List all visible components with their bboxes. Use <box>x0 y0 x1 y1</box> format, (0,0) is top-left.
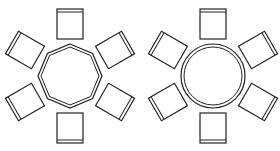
circular-table-layout <box>148 9 277 143</box>
seating-diagram <box>0 0 280 151</box>
chair-bottom <box>57 113 83 143</box>
chair-top-right <box>96 31 135 69</box>
chair-bottom-right <box>239 83 278 121</box>
chair-bottom <box>200 113 226 143</box>
chair-top <box>57 9 83 39</box>
circle-table <box>181 44 245 108</box>
chair-bottom-right <box>96 83 135 121</box>
chair-top <box>200 9 226 39</box>
chair-top-right <box>239 31 278 69</box>
chair-bottom-left <box>148 83 187 121</box>
chair-bottom-left <box>5 83 44 121</box>
octagonal-table-layout <box>5 9 134 143</box>
chair-top-left <box>148 31 187 69</box>
chair-top-left <box>5 31 44 69</box>
octagon-table <box>38 44 102 108</box>
